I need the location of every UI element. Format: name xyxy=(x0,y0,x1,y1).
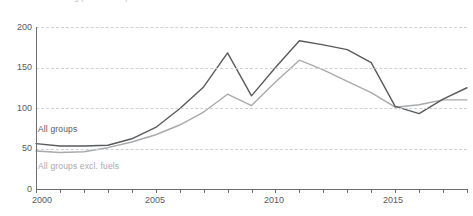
x-axis-tick-2018 xyxy=(467,189,468,193)
x-tick-label-2000: 2000 xyxy=(32,196,52,205)
series-label-all-groups: All groups xyxy=(38,124,77,134)
y-tick-label-100: 100 xyxy=(4,104,32,113)
x-axis-tick-2011 xyxy=(299,189,300,193)
gridline-100 xyxy=(36,108,467,109)
x-axis-tick-2016 xyxy=(419,189,420,193)
x-axis-tick-2010 xyxy=(275,189,276,193)
x-axis-tick-2013 xyxy=(347,189,348,193)
x-axis-tick-2012 xyxy=(323,189,324,193)
x-axis-tick-2008 xyxy=(228,189,229,193)
x-axis-tick-2002 xyxy=(84,189,85,193)
gridline-50 xyxy=(36,149,467,150)
x-axis-tick-2009 xyxy=(252,189,253,193)
y-tick-label-200: 200 xyxy=(4,23,32,32)
x-axis-tick-2015 xyxy=(395,189,396,193)
x-tick-label-2010: 2010 xyxy=(264,196,284,205)
x-axis-tick-2017 xyxy=(443,189,444,193)
x-axis-tick-2006 xyxy=(180,189,181,193)
x-axis-tick-2000 xyxy=(36,189,37,193)
chart-title: g (2010 = 100) xyxy=(74,0,128,2)
x-axis-tick-2003 xyxy=(108,189,109,193)
series-label-all-groups-excl-fuels: All groups excl. fuels xyxy=(38,161,119,171)
x-tick-label-2015: 2015 xyxy=(383,196,403,205)
gridline-200 xyxy=(36,27,467,28)
y-tick-label-150: 150 xyxy=(4,63,32,72)
y-tick-label-50: 50 xyxy=(4,144,32,153)
series-line-all-groups xyxy=(36,41,467,146)
x-axis-tick-2007 xyxy=(204,189,205,193)
series-line-all-groups-excl-fuels xyxy=(36,60,467,152)
x-tick-label-2005: 2005 xyxy=(145,196,165,205)
gridline-150 xyxy=(36,68,467,69)
x-axis-tick-2001 xyxy=(60,189,61,193)
commodity-price-index-chart: g (2010 = 100) 200 150 100 50 0 2000 200… xyxy=(0,0,473,216)
y-axis-labels: 200 150 100 50 0 xyxy=(0,0,32,216)
x-axis-tick-2014 xyxy=(371,189,372,193)
x-axis-tick-2004 xyxy=(132,189,133,193)
y-tick-label-0: 0 xyxy=(4,185,32,194)
x-axis-tick-2005 xyxy=(156,189,157,193)
y-axis xyxy=(36,27,37,189)
